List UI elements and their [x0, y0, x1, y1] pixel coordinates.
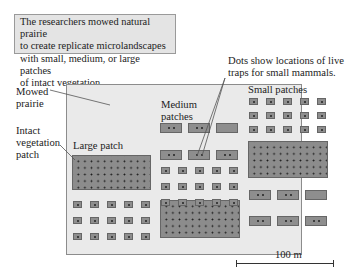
- scale-bar-tick: [333, 260, 334, 267]
- leader-lines: [0, 0, 351, 279]
- scale-bar-label: 100 m: [275, 249, 302, 261]
- scale-bar: [236, 263, 334, 264]
- scale-bar-tick: [236, 260, 237, 267]
